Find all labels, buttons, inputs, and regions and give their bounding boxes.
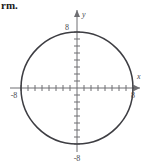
x-min-tick-label: -8: [11, 91, 18, 100]
y-min-tick-label: -8: [74, 154, 81, 163]
coordinate-plane-svg: x y 8 -8 -8 8: [0, 0, 150, 164]
x-max-tick-label: 8: [131, 91, 135, 100]
x-axis-label: x: [136, 72, 141, 81]
circle-graph-figure: x y 8 -8 -8 8: [0, 0, 150, 164]
y-axis-arrowhead: [74, 10, 80, 17]
y-axis-label: y: [81, 10, 86, 19]
y-max-tick-label: 8: [65, 23, 69, 32]
